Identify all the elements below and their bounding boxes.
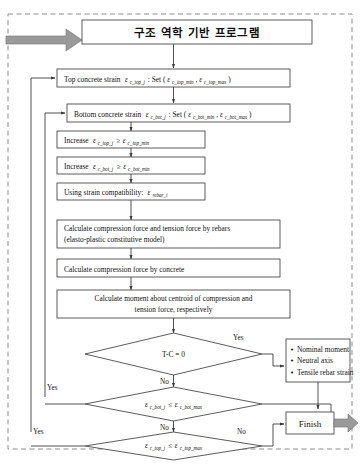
calc-moment-line1: Calculate moment about centroid of compr… — [94, 294, 252, 303]
bottom-strain-symbol3: ε — [220, 110, 223, 119]
title-text: 구조 역학 기반 프로그램 — [134, 26, 260, 40]
decision-bot-symbol2-sub: c_bot_max — [180, 404, 203, 410]
decision-bot-symbol2: ε — [175, 400, 178, 409]
increase-top-op: ≥ — [116, 136, 120, 145]
decision-tc-yes-label: Yes — [233, 334, 244, 342]
increase-top-label: Increase — [64, 136, 89, 145]
decision-top-op: ≤ — [168, 441, 172, 450]
increase-bot-label: Increase — [64, 162, 89, 171]
calc-moment-line2: tension force, respectively — [135, 305, 213, 314]
edge-loop-bottom-feedback — [45, 113, 65, 397]
top-strain-symbol2-sub: c_top_min — [172, 79, 194, 85]
bottom-strain-label2: : Set ( — [169, 110, 187, 119]
bottom-strain-symbol-sub: c_bot_j — [150, 114, 166, 120]
calc-concrete-force-text: Calculate compression force by concrete — [64, 265, 185, 274]
increase-bot-symbol2: ε — [123, 162, 126, 171]
compatibility-symbol-sub: rebar_i — [152, 192, 168, 198]
results-item-2: Tensile rebar strain — [297, 368, 354, 377]
top-strain-symbol3: ε — [199, 75, 202, 84]
decision-bot-symbol: ε — [145, 400, 148, 409]
top-strain-label2: : Set ( — [148, 75, 166, 84]
entry-arrow-icon — [6, 29, 82, 51]
decision-top-yes-label: Yes — [33, 428, 44, 436]
increase-top-symbol-sub: c_top_j — [98, 140, 114, 146]
bottom-strain-label: Bottom concrete strain — [74, 110, 142, 119]
decision-bot-yes-label: Yes — [47, 384, 58, 392]
bottom-strain-symbol3-sub: c_bot_max — [225, 114, 248, 120]
decision-top-symbol2: ε — [175, 441, 178, 450]
decision-tc-label: T-C = 0 — [162, 350, 185, 359]
decision-top-no-label: No — [237, 428, 246, 436]
edge-top-no-to-finish — [262, 424, 284, 446]
decision-top-symbol: ε — [145, 441, 148, 450]
increase-top-symbol2-sub: c_top_min — [128, 140, 150, 146]
increase-top-symbol: ε — [93, 136, 96, 145]
decision-bot-no-label: No — [160, 424, 169, 432]
results-item-1: Neutral axis — [297, 356, 333, 365]
increase-bot-symbol2-sub: c_bot_min — [128, 166, 150, 172]
decision-bot-op: ≤ — [168, 400, 172, 409]
finish-label: Finish — [299, 419, 322, 429]
bottom-strain-symbol: ε — [146, 110, 149, 119]
edge-tc-yes-to-results — [262, 354, 284, 366]
results-bullet-2-marker: • — [290, 369, 294, 377]
decision-top-symbol-sub: c_top_j — [150, 445, 166, 451]
bottom-strain-symbol2-sub: c_bot_min — [193, 114, 215, 120]
calc-rebar-force-line2: (elasto-plastic constitutive model) — [64, 235, 165, 244]
top-strain-symbol-sub: c_top_j — [130, 79, 146, 85]
compatibility-symbol: ε — [148, 188, 151, 197]
top-strain-symbol2: ε — [167, 75, 170, 84]
increase-bot-op: ≥ — [116, 162, 120, 171]
top-strain-symbol: ε — [125, 75, 128, 84]
calc-rebar-force-line1: Calculate compression force and tension … — [64, 224, 230, 233]
decision-tc-no-label: No — [160, 378, 169, 386]
top-strain-label: Top concrete strain — [64, 75, 121, 84]
increase-top-symbol2: ε — [123, 136, 126, 145]
results-item-0: Nominal moment — [297, 345, 350, 354]
results-bullet-0-marker: • — [290, 346, 294, 354]
bottom-strain-symbol2: ε — [188, 110, 191, 119]
decision-bot-symbol-sub: c_bot_j — [150, 404, 166, 410]
edge-loop-top-feedback — [31, 78, 55, 432]
flowchart-svg: 구조 역학 기반 프로그램 Top concrete strain ε c_to… — [0, 0, 360, 465]
flowchart-canvas: 구조 역학 기반 프로그램 Top concrete strain ε c_to… — [0, 0, 360, 465]
results-bullet-1-marker: • — [290, 357, 294, 365]
compatibility-label: Using strain compatibility: — [64, 188, 143, 197]
increase-bot-symbol: ε — [93, 162, 96, 171]
top-strain-symbol3-sub: c_top_max — [204, 79, 227, 85]
exit-arrow-icon — [334, 414, 358, 432]
increase-bot-symbol-sub: c_bot_j — [98, 166, 114, 172]
decision-top-symbol2-sub: c_top_max — [180, 445, 203, 451]
